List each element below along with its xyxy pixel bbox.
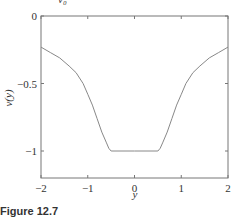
y-tick-label: −1 (25, 145, 37, 157)
x-axis-label: y (132, 188, 138, 200)
figure-caption: Figure 12.7 (0, 205, 58, 217)
x-tick-label: −2 (35, 182, 47, 194)
y-tick-label: −0.5 (17, 78, 37, 90)
y-axis-label: v(y) (2, 89, 15, 106)
plot-frame (41, 16, 228, 178)
x-tick-label: 1 (179, 182, 185, 194)
axis-ticks: −2−10120−0.5−1 (17, 10, 231, 194)
x-tick-label: 2 (225, 182, 231, 194)
line-chart: −2−10120−0.5−1 y v(y) (0, 0, 240, 224)
x-tick-label: −1 (82, 182, 94, 194)
plot-axes (41, 16, 228, 178)
series-line (41, 47, 228, 151)
data-series (41, 47, 228, 151)
y-tick-label: 0 (32, 10, 38, 22)
